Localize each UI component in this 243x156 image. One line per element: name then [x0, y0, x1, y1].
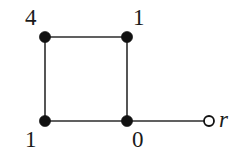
edges-layer [45, 37, 204, 121]
graph-node [39, 31, 50, 42]
graph-node [121, 115, 132, 126]
graph-node-root [204, 116, 214, 126]
node-label-top-right: 1 [133, 6, 145, 29]
node-label-root: r [219, 108, 228, 131]
graph-node [121, 31, 132, 42]
node-label-top-left: 4 [25, 6, 37, 29]
graph-diagram: 4110r [0, 0, 243, 156]
node-label-bottom-left: 1 [25, 128, 37, 151]
graph-node [39, 115, 50, 126]
node-label-bottom-right: 0 [132, 128, 144, 151]
